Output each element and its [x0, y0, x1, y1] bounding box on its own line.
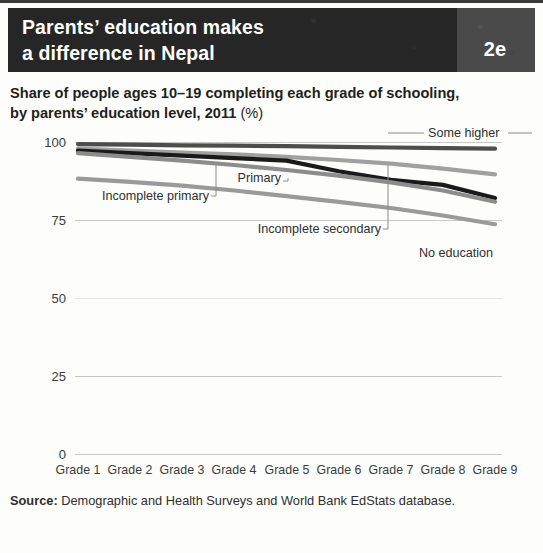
figure-title: Parents’ education makes a difference in… — [22, 14, 442, 66]
leader-incomplete-secondary — [383, 165, 388, 229]
annotation-incomplete-secondary: Incomplete secondary — [258, 222, 382, 236]
annotation-primary: Primary — [238, 171, 282, 185]
annotation-incomplete-primary: Incomplete primary — [102, 189, 210, 203]
x-axis-labels: Grade 1 Grade 2 Grade 3 Grade 4 Grade 5 … — [56, 463, 518, 476]
y-tick-label: 75 — [52, 213, 66, 228]
x-tick-label: Grade 9 — [473, 463, 518, 476]
x-tick-label: Grade 4 — [212, 463, 257, 476]
source-note: Source: Demographic and Health Surveys a… — [10, 492, 526, 510]
figure-number-panel: 2e — [457, 8, 535, 72]
leader-primary — [283, 178, 288, 181]
chart-svg: 100 75 50 25 0 Grade 1 Grade 2 Grade 3 G… — [0, 126, 543, 476]
x-tick-label: Grade 5 — [265, 463, 310, 476]
source-label: Source: — [10, 493, 58, 508]
figure-number-badge: 2e — [484, 38, 507, 61]
x-tick-label: Grade 7 — [369, 463, 414, 476]
annotation-some-higher: Some higher — [428, 126, 499, 140]
chart-subtitle: Share of people ages 10–19 completing ea… — [10, 84, 530, 123]
y-tick-label: 50 — [52, 291, 66, 306]
x-tick-label: Grade 2 — [108, 463, 153, 476]
line-chart: 100 75 50 25 0 Grade 1 Grade 2 Grade 3 G… — [0, 126, 543, 476]
source-text: Demographic and Health Surveys and World… — [58, 493, 455, 508]
chart-subtitle-line2: by parents’ education level, 2011 — [10, 105, 236, 121]
top-rule — [0, 0, 543, 3]
figure-title-line2: a difference in Nepal — [22, 40, 442, 66]
x-tick-label: Grade 1 — [56, 463, 101, 476]
y-tick-label: 100 — [44, 135, 66, 150]
y-tick-label: 0 — [59, 447, 66, 462]
x-tick-label: Grade 6 — [317, 463, 362, 476]
y-axis-labels: 100 75 50 25 0 — [44, 135, 66, 462]
x-tick-label: Grade 8 — [421, 463, 466, 476]
annotation-no-education: No education — [419, 246, 493, 260]
x-tick-label: Grade 3 — [160, 463, 205, 476]
chart-subtitle-line1: Share of people ages 10–19 completing ea… — [10, 85, 459, 101]
leader-incomplete-primary — [211, 164, 216, 196]
y-tick-label: 25 — [52, 369, 66, 384]
figure-panel: Parents’ education makes a difference in… — [0, 0, 543, 553]
chart-subtitle-unit: (%) — [240, 105, 263, 121]
series-line-some-higher — [78, 144, 495, 149]
series-lines — [78, 144, 495, 224]
figure-header: Parents’ education makes a difference in… — [8, 8, 535, 72]
figure-title-line1: Parents’ education makes — [22, 16, 264, 38]
